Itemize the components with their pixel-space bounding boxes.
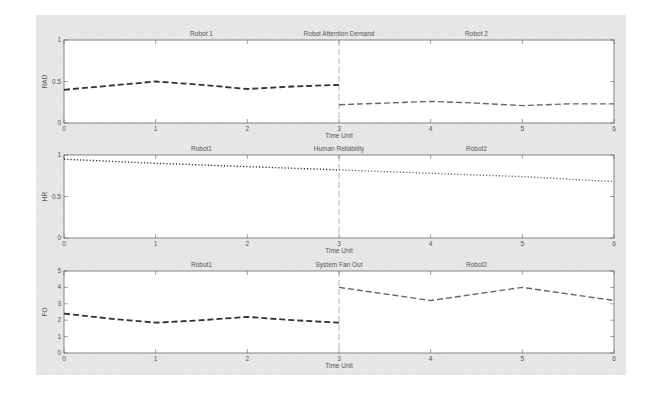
y-tick-label: 0 — [57, 119, 61, 126]
chart-canvas: 012345600.51Robot Attention DemandRobot … — [0, 0, 649, 396]
section-label-left: Robot1 — [191, 261, 212, 268]
x-tick-label: 4 — [429, 240, 433, 247]
y-tick-label: 0.5 — [52, 193, 61, 200]
x-tick-label: 5 — [521, 125, 525, 132]
x-tick-label: 2 — [246, 355, 250, 362]
x-tick-label: 1 — [154, 240, 158, 247]
section-label-left: Robot1 — [191, 145, 212, 152]
x-tick-label: 3 — [337, 125, 341, 132]
x-tick-label: 3 — [337, 355, 341, 362]
y-tick-label: 4 — [57, 283, 61, 290]
x-tick-label: 2 — [246, 240, 250, 247]
x-axis-label: Time Unit — [325, 247, 353, 254]
x-tick-label: 3 — [337, 240, 341, 247]
x-tick-label: 4 — [429, 355, 433, 362]
subplot-title: System Fan Out — [316, 261, 363, 269]
y-tick-label: 5 — [57, 267, 61, 274]
subplot-1: 012345600.51Robot Attention DemandRobot … — [41, 30, 616, 139]
y-tick-label: 1 — [57, 36, 61, 43]
y-tick-label: 0 — [57, 234, 61, 241]
x-tick-label: 2 — [246, 125, 250, 132]
x-axis-label: Time Unit — [325, 362, 353, 369]
x-tick-label: 0 — [62, 355, 66, 362]
y-tick-label: 0 — [57, 349, 61, 356]
subplot-title: Robot Attention Demand — [304, 30, 375, 37]
y-axis-label: RAD — [41, 74, 48, 88]
x-tick-label: 0 — [62, 125, 66, 132]
y-tick-label: 2 — [57, 316, 61, 323]
x-tick-label: 5 — [521, 355, 525, 362]
section-label-left: Robot 1 — [190, 30, 213, 37]
x-tick-label: 6 — [612, 355, 616, 362]
x-tick-label: 4 — [429, 125, 433, 132]
section-label-right: Robot2 — [466, 261, 487, 268]
subplot-2: 012345600.51Human ReliabilityRobot1Robot… — [41, 145, 616, 254]
x-tick-label: 5 — [521, 240, 525, 247]
x-tick-label: 1 — [154, 125, 158, 132]
x-axis-label: Time Unit — [325, 132, 353, 139]
section-label-right: Robot 2 — [465, 30, 488, 37]
x-tick-label: 0 — [62, 240, 66, 247]
x-tick-label: 6 — [612, 240, 616, 247]
y-tick-label: 1 — [57, 151, 61, 158]
subplot-3: 0123456012345System Fan OutRobot1Robot2T… — [41, 261, 616, 369]
y-axis-label: HR — [41, 192, 48, 202]
x-tick-label: 6 — [612, 125, 616, 132]
subplot-title: Human Reliability — [314, 145, 365, 153]
x-tick-label: 1 — [154, 355, 158, 362]
section-label-right: Robot2 — [466, 145, 487, 152]
y-tick-label: 3 — [57, 300, 61, 307]
y-tick-label: 0.5 — [52, 78, 61, 85]
y-tick-label: 1 — [57, 333, 61, 340]
y-axis-label: FO — [41, 307, 48, 316]
